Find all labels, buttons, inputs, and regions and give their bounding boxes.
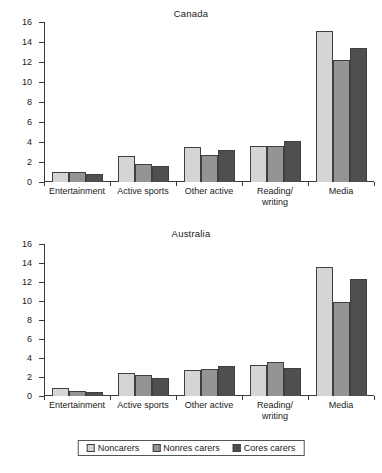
y-tick-label: 16 [22, 18, 32, 27]
legend-label: Nonres carers [163, 443, 220, 453]
y-tick-label: 0 [27, 392, 32, 401]
legend-swatch-icon [152, 444, 160, 452]
plot-area-canada: 0246810121416 [44, 22, 374, 182]
bar [250, 365, 267, 396]
bar [52, 388, 69, 396]
x-axis-label: Other active [176, 400, 242, 422]
bar [350, 279, 367, 396]
plot-area-australia: 0246810121416 [44, 244, 374, 396]
bar [316, 267, 333, 396]
bar [135, 375, 152, 396]
chart-panel-canada: Canada 0246810121416 EntertainmentActive… [0, 0, 382, 226]
x-axis-label: Active sports [110, 400, 176, 422]
bar [69, 391, 86, 396]
x-axis-label: Other active [176, 186, 242, 208]
y-tick-label: 10 [22, 297, 32, 306]
legend-swatch-icon [233, 444, 241, 452]
y-tick-label: 6 [27, 118, 32, 127]
bar [218, 366, 235, 396]
bar [135, 164, 152, 182]
y-tick-label: 0 [27, 178, 32, 187]
bar [284, 368, 301, 396]
bar-groups-canada [44, 22, 374, 182]
bar [118, 156, 135, 182]
y-tick-label: 12 [22, 278, 32, 287]
legend-item: Cores carers [233, 443, 296, 453]
legend-item: Noncarers [87, 443, 140, 453]
x-axis-label: Media [308, 400, 374, 422]
x-axis-label: Reading/writing [242, 186, 308, 208]
bar-group [242, 22, 308, 182]
y-tick-label: 10 [22, 78, 32, 87]
bar-group [176, 22, 242, 182]
y-tick-label: 4 [27, 354, 32, 363]
bar [52, 172, 69, 182]
bar-group [44, 22, 110, 182]
y-tick-label: 2 [27, 373, 32, 382]
y-tick-label: 14 [22, 38, 32, 47]
bar [184, 147, 201, 182]
bar-group [308, 244, 374, 396]
chart-title-canada: Canada [0, 8, 382, 19]
y-tick-label: 12 [22, 58, 32, 67]
bar [184, 370, 201, 396]
y-tick-label: 14 [22, 259, 32, 268]
y-tick-label: 8 [27, 98, 32, 107]
chart-panel-australia: Australia 0246810121416 EntertainmentAct… [0, 226, 382, 436]
bar-group [44, 244, 110, 396]
bar-group [308, 22, 374, 182]
bar [350, 48, 367, 182]
legend-label: Noncarers [98, 443, 140, 453]
legend-item: Nonres carers [152, 443, 220, 453]
bar-group [110, 22, 176, 182]
x-axis-label: Media [308, 186, 374, 208]
bar [201, 369, 218, 396]
x-axis-label: Active sports [110, 186, 176, 208]
x-axis-labels-canada: EntertainmentActive sportsOther activeRe… [44, 186, 374, 208]
y-tick-label: 16 [22, 240, 32, 249]
bar-group [242, 244, 308, 396]
chart-legend: NoncarersNonres carersCores carers [78, 440, 305, 456]
bar-group [176, 244, 242, 396]
bar [152, 378, 169, 396]
legend-swatch-icon [87, 444, 95, 452]
x-axis-label: Reading/writing [242, 400, 308, 422]
bar [218, 150, 235, 182]
bar [333, 60, 350, 182]
chart-title-australia: Australia [0, 228, 382, 239]
bar [316, 31, 333, 182]
x-axis-label: Entertainment [44, 186, 110, 208]
legend-label: Cores carers [244, 443, 296, 453]
bar-groups-australia [44, 244, 374, 396]
y-tick-label: 2 [27, 158, 32, 167]
bar-group [110, 244, 176, 396]
x-axis-label: Entertainment [44, 400, 110, 422]
bar [86, 392, 103, 396]
x-tick [374, 182, 375, 186]
bar [69, 172, 86, 182]
x-axis-labels-australia: EntertainmentActive sportsOther activeRe… [44, 400, 374, 422]
bar [267, 362, 284, 396]
y-tick-label: 4 [27, 138, 32, 147]
bar [333, 302, 350, 396]
bar [201, 155, 218, 183]
y-tick-label: 6 [27, 335, 32, 344]
bar [284, 141, 301, 182]
bar [250, 146, 267, 182]
bar [118, 373, 135, 396]
bar [152, 166, 169, 182]
bar [86, 174, 103, 183]
x-tick [374, 396, 375, 400]
bar [267, 146, 284, 183]
y-tick-label: 8 [27, 316, 32, 325]
